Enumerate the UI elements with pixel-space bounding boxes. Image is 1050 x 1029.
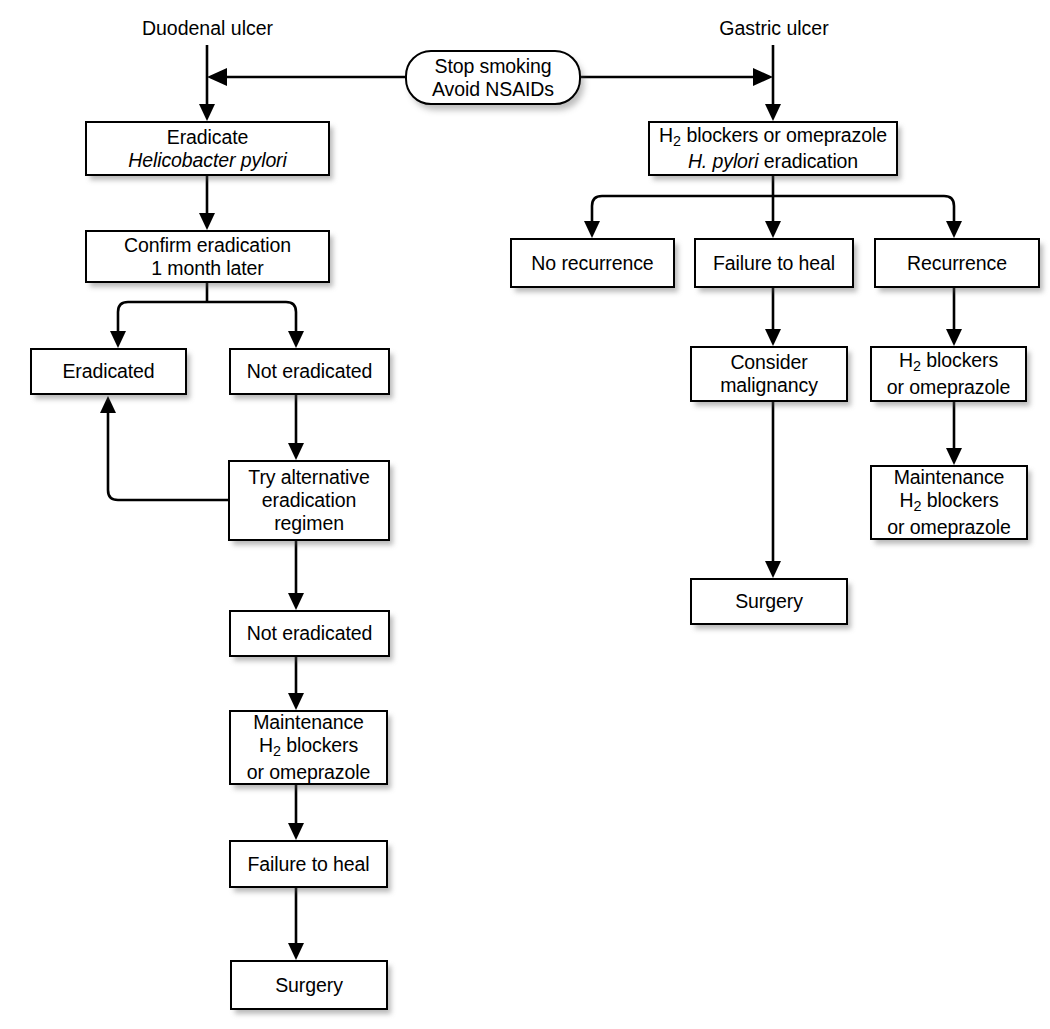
arrowhead-to-no-recurrence [584,221,600,238]
node-failure-to-heal-right: Failure to heal [694,238,854,288]
confirm-line-1: Confirm eradication [91,234,324,257]
arrowhead-to-recurrence [946,221,962,238]
arrowhead-eradicate-to-confirm [199,213,215,230]
caption-gastric-ulcer: Gastric ulcer [700,18,848,39]
arrowhead-to-failure-to-heal [765,221,781,238]
node-confirm-eradication: Confirm eradication 1 month later [85,230,330,283]
edge-tryalt-loopback-to-eradicated [108,408,228,500]
edge-first-split-bus [592,196,954,227]
maintenance-right-line-2: H2 blockers [876,489,1022,515]
h2-right-line-2: or omeprazole [876,376,1021,399]
arrowhead-tryalt-to-noterad2 [288,593,304,610]
arrowhead-noterad2-to-maintenance [288,693,304,710]
no-recurrence-label: No recurrence [531,252,653,275]
failure-to-heal-right-label: Failure to heal [713,252,835,275]
arrowhead-h2-to-maintenance [946,448,962,465]
node-eradicate-helicobacter-pylori: Eradicate Helicobacter pylori [85,121,330,176]
recurrence-label: Recurrence [907,252,1007,275]
node-stop-smoking-avoid-nsaids: Stop smoking Avoid NSAIDs [405,50,581,105]
node-maintenance-right: Maintenance H2 blockers or omeprazole [870,465,1028,540]
node-recurrence: Recurrence [874,238,1040,288]
arrowhead-to-eradicated [110,331,126,348]
h2-right-line-1: H2 blockers [876,349,1021,375]
maintenance-left-line-1: Maintenance [235,711,382,734]
failure-to-heal-left-label: Failure to heal [247,853,369,876]
surgery-right-label: Surgery [735,590,803,613]
arrowhead-consider-to-surgery [765,561,781,578]
surgery-left-label: Surgery [275,974,343,997]
node-failure-to-heal-left: Failure to heal [229,840,388,888]
arrowhead-gastric-to-first [765,104,781,121]
not-eradicated-2-label: Not eradicated [247,622,372,645]
arrowhead-failure-to-consider [765,329,781,346]
eradicate-line-1: Eradicate [91,126,324,149]
maintenance-left-line-2: H2 blockers [235,734,382,760]
node-surgery-right: Surgery [690,578,848,625]
node-try-alternative-regimen: Try alternative eradication regimen [228,460,390,541]
arrowhead-to-not-eradicated-1 [288,331,304,348]
consider-line-2: malignancy [696,374,842,397]
arrowhead-duodenal-to-eradicate [199,104,215,121]
advice-line-1: Stop smoking [411,55,575,78]
arrowhead-loopback-to-eradicated [100,396,116,413]
arrowhead-advice-to-left [207,68,227,86]
flowchart-canvas: Duodenal ulcer Gastric ulcer Stop smokin… [0,0,1050,1029]
try-alt-line-2: eradication [234,489,384,512]
node-consider-malignancy: Consider malignancy [690,346,848,402]
right-first-line-2: H. pylori eradication [654,150,892,173]
confirm-line-2: 1 month later [91,257,324,280]
arrowhead-advice-to-right [753,68,773,86]
node-surgery-left: Surgery [230,960,388,1010]
consider-line-1: Consider [696,351,842,374]
right-first-line-1: H2 blockers or omeprazole [654,124,892,150]
arrowhead-noterad1-to-tryalt [288,443,304,460]
node-h2-blockers-hpylori-eradication: H2 blockers or omeprazole H. pylori erad… [648,121,898,176]
node-not-eradicated-second: Not eradicated [229,610,390,657]
try-alt-line-1: Try alternative [234,466,384,489]
eradicate-line-2: Helicobacter pylori [91,149,324,172]
maintenance-left-line-3: or omeprazole [235,761,382,784]
eradicated-label: Eradicated [62,360,154,383]
arrowhead-failure-to-surgery [288,943,304,960]
not-eradicated-1-label: Not eradicated [247,360,372,383]
arrowhead-maintenance-to-failure [288,823,304,840]
caption-duodenal-ulcer: Duodenal ulcer [130,18,285,39]
node-no-recurrence: No recurrence [510,238,675,288]
try-alt-line-3: regimen [234,512,384,535]
node-maintenance-left: Maintenance H2 blockers or omeprazole [229,710,388,785]
advice-line-2: Avoid NSAIDs [411,78,575,101]
node-not-eradicated-first: Not eradicated [229,348,390,395]
maintenance-right-line-1: Maintenance [876,466,1022,489]
maintenance-right-line-3: or omeprazole [876,516,1022,539]
edge-confirm-split-bus [118,302,296,337]
node-eradicated: Eradicated [30,348,187,395]
node-h2-blockers-or-omeprazole: H2 blockers or omeprazole [870,346,1027,402]
arrowhead-recurrence-to-h2 [946,329,962,346]
